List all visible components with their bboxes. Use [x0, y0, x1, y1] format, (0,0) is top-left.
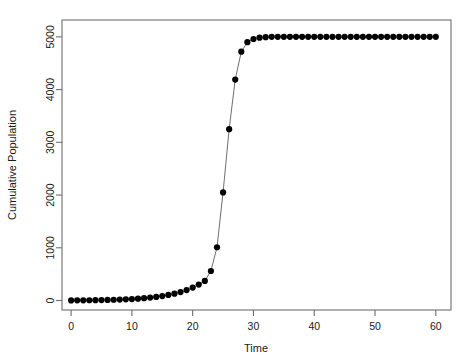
data-point [92, 297, 98, 303]
data-point [165, 292, 171, 298]
data-point [86, 297, 92, 303]
data-point [433, 34, 439, 40]
data-point [342, 34, 348, 40]
x-tick-label: 60 [430, 320, 442, 332]
data-point [177, 289, 183, 295]
x-tick-label: 40 [308, 320, 320, 332]
data-point [171, 291, 177, 297]
x-tick-label: 10 [126, 320, 138, 332]
y-tick-label: 5000 [44, 25, 56, 49]
data-point [348, 34, 354, 40]
data-point [378, 34, 384, 40]
data-point [111, 297, 117, 303]
chart-container: 0102030405060 010002000300040005000 Time… [0, 0, 470, 362]
data-point [293, 34, 299, 40]
data-point [202, 278, 208, 284]
data-point [244, 39, 250, 45]
data-point [196, 281, 202, 287]
data-point [104, 297, 110, 303]
data-point [135, 296, 141, 302]
data-point [408, 34, 414, 40]
data-point [147, 295, 153, 301]
data-point [80, 297, 86, 303]
data-point [366, 34, 372, 40]
x-tick-label: 20 [187, 320, 199, 332]
data-point [414, 34, 420, 40]
data-point [281, 34, 287, 40]
data-point [232, 76, 238, 82]
data-point [74, 297, 80, 303]
data-point [427, 34, 433, 40]
cumulative-population-plot: 0102030405060 010002000300040005000 Time… [0, 0, 470, 362]
data-point [360, 34, 366, 40]
x-tick-label: 50 [369, 320, 381, 332]
data-point [396, 34, 402, 40]
data-point [311, 34, 317, 40]
data-point [299, 34, 305, 40]
data-point [384, 34, 390, 40]
data-point [250, 36, 256, 42]
data-point [256, 35, 262, 41]
data-point [220, 189, 226, 195]
data-point [123, 296, 129, 302]
data-point [208, 268, 214, 274]
y-axis-title: Cumulative Population [6, 110, 18, 220]
y-tick-label: 2000 [44, 183, 56, 207]
data-point [335, 34, 341, 40]
data-point [354, 34, 360, 40]
data-point [421, 34, 427, 40]
plot-background [0, 0, 470, 362]
data-point [329, 34, 335, 40]
data-point [275, 34, 281, 40]
y-tick-label: 4000 [44, 78, 56, 102]
data-point [238, 49, 244, 55]
data-point [68, 297, 74, 303]
data-point [305, 34, 311, 40]
data-point [190, 284, 196, 290]
data-point [98, 297, 104, 303]
data-point [214, 244, 220, 250]
data-point [117, 296, 123, 302]
y-tick-label: 0 [44, 297, 56, 303]
y-tick-label: 3000 [44, 130, 56, 154]
data-point [129, 296, 135, 302]
data-point [317, 34, 323, 40]
data-point [153, 294, 159, 300]
data-point [269, 34, 275, 40]
y-tick-label: 1000 [44, 236, 56, 260]
data-point [226, 126, 232, 132]
x-tick-label: 0 [68, 320, 74, 332]
x-axis-title: Time [244, 342, 268, 354]
data-point [390, 34, 396, 40]
x-tick-label: 30 [248, 320, 260, 332]
data-point [141, 295, 147, 301]
data-point [184, 287, 190, 293]
data-point [372, 34, 378, 40]
data-point [402, 34, 408, 40]
data-point [159, 293, 165, 299]
data-point [287, 34, 293, 40]
data-point [263, 34, 269, 40]
data-point [323, 34, 329, 40]
